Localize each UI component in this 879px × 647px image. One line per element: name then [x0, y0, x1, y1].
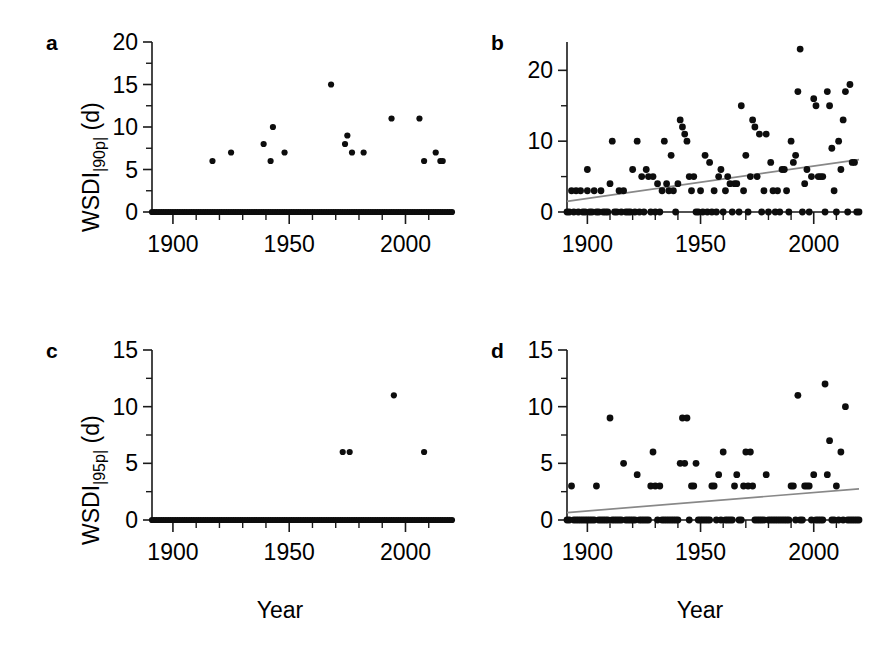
data-point [656, 209, 663, 216]
data-point [702, 152, 709, 159]
data-point [711, 483, 718, 490]
x-tick-label-c: 1950 [264, 539, 315, 565]
y-tick-label-a: 10 [112, 114, 138, 140]
data-point [763, 471, 770, 478]
panel-c: c WSDI|95p| (d) 051015190019502000 Year [0, 320, 470, 647]
data-point [826, 102, 833, 109]
data-point [804, 166, 811, 173]
x-tick-label-b: 2000 [788, 231, 839, 257]
data-point [654, 180, 661, 187]
plot-area-a: 05101520190019502000 [0, 0, 470, 320]
data-point [738, 102, 745, 109]
data-point [806, 209, 813, 216]
data-point [577, 187, 584, 194]
plot-area-c: 051015190019502000 [0, 320, 470, 610]
data-point [733, 180, 740, 187]
x-tick-label-d: 2000 [788, 539, 839, 565]
data-point [433, 149, 439, 155]
data-point [813, 102, 820, 109]
y-tick-label-b: 20 [527, 57, 553, 83]
data-point [790, 483, 797, 490]
x-tick-label-b: 1950 [675, 231, 726, 257]
x-tick-label-a: 1950 [264, 231, 315, 257]
y-axis-label-c: WSDI|95p| (d) [78, 415, 109, 545]
data-point [668, 152, 675, 159]
y-tick-label-b: 10 [527, 128, 553, 154]
data-point [785, 517, 792, 524]
data-point [228, 149, 234, 155]
data-point [690, 173, 697, 180]
data-point [749, 483, 756, 490]
y-tick-label-a: 15 [112, 72, 138, 98]
data-point [785, 209, 792, 216]
panel-a: a WSDI|90p| (d) 05101520190019502000 [0, 0, 470, 320]
data-point [724, 173, 731, 180]
data-point [391, 392, 397, 398]
panel-b: b 01020190019502000 [455, 0, 879, 320]
data-point [776, 209, 783, 216]
data-point [801, 180, 808, 187]
data-point [620, 187, 627, 194]
data-point [774, 187, 781, 194]
data-point [609, 138, 616, 145]
data-point [808, 173, 815, 180]
axis-spine-c [152, 350, 452, 520]
data-point [720, 209, 727, 216]
figure-root: a WSDI|90p| (d) 05101520190019502000 b 0… [0, 0, 879, 647]
data-point [729, 517, 736, 524]
data-point [261, 141, 267, 147]
data-point [675, 517, 682, 524]
data-point [681, 460, 688, 467]
panel-label-d: d [491, 340, 504, 361]
data-point [706, 159, 713, 166]
data-point [349, 149, 355, 155]
data-point [679, 124, 686, 131]
data-points-d [564, 381, 863, 524]
data-point [788, 138, 795, 145]
data-point [799, 209, 806, 216]
data-point [754, 173, 761, 180]
y-tick-label-a: 0 [125, 199, 138, 225]
y-axis-label-a-main: WSDI [78, 172, 104, 232]
data-point [745, 209, 752, 216]
data-point [634, 138, 641, 145]
data-point [584, 166, 591, 173]
panel-label-a: a [46, 32, 58, 53]
y-tick-label-d: 10 [527, 394, 553, 420]
data-point [715, 173, 722, 180]
data-point [684, 138, 691, 145]
data-point [268, 158, 274, 164]
data-point [711, 187, 718, 194]
data-point [344, 132, 350, 138]
data-point [715, 471, 722, 478]
x-tick-label-d: 1950 [675, 539, 726, 565]
data-point [328, 81, 334, 87]
data-point [598, 187, 605, 194]
axis-spine-a [152, 42, 452, 212]
data-point [847, 81, 854, 88]
data-point [643, 166, 650, 173]
data-point [722, 187, 729, 194]
data-point [645, 517, 652, 524]
data-point [810, 95, 817, 102]
data-point [281, 149, 287, 155]
data-point [733, 471, 740, 478]
data-point [819, 173, 826, 180]
trend-line-d [567, 489, 859, 513]
data-point [790, 159, 797, 166]
data-point [740, 187, 747, 194]
data-point [607, 180, 614, 187]
data-point [856, 209, 863, 216]
data-point [656, 483, 663, 490]
data-point [819, 517, 826, 524]
data-point [638, 173, 645, 180]
data-point [650, 173, 657, 180]
data-point [831, 187, 838, 194]
data-point [731, 483, 738, 490]
y-tick-label-b: 0 [540, 199, 553, 225]
data-point [742, 152, 749, 159]
x-axis-label-d: Year [550, 597, 850, 624]
data-point [713, 209, 720, 216]
data-point [781, 166, 788, 173]
data-point [675, 180, 682, 187]
